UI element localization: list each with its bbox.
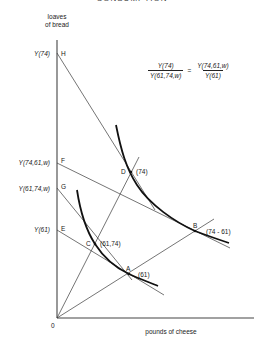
equation-lhs-numerator: Y(74) — [156, 62, 176, 70]
point-B-tag: (74 - 61) — [206, 228, 231, 235]
point-F-label: F — [61, 157, 65, 164]
y-label-Y74: Y(74) — [34, 50, 50, 57]
point-B-marker — [194, 230, 197, 233]
budget-line-G — [57, 188, 132, 280]
point-H-label: H — [61, 50, 66, 57]
budget-line-H — [57, 53, 155, 210]
point-A-label: A — [126, 265, 130, 272]
point-B-label: B — [193, 222, 197, 229]
point-D-label: D — [121, 168, 126, 175]
y-label-Y61: Y(61) — [34, 226, 50, 233]
point-E-label: E — [61, 225, 65, 232]
point-C-label: C — [86, 240, 91, 247]
y-axis-title: loaves of bread — [38, 13, 76, 28]
equation-lhs-denominator: Y(61,74,w) — [148, 70, 183, 79]
equation-rhs-fraction: Y(74,61,w) Y(61) — [195, 62, 230, 79]
y-axis-title-line1: loaves — [38, 13, 76, 21]
y-axis-title-line2: of bread — [38, 21, 76, 29]
equation-rhs-numerator: Y(74,61,w) — [195, 62, 230, 70]
point-G-label: G — [61, 183, 66, 190]
equation-rhs-denominator: Y(61) — [203, 70, 223, 79]
point-A-marker — [128, 273, 131, 276]
indifference-curve-upper — [116, 125, 229, 243]
equation-equals-sign: = — [187, 67, 191, 74]
y-label-Y74-text: Y(74) — [34, 50, 50, 57]
point-D-tag: (74) — [136, 168, 148, 175]
y-label-Y74-61-w-text: Y(74,61,w) — [19, 159, 50, 166]
y-label-Y74-61-w: Y(74,61,w) — [19, 159, 50, 166]
y-label-Y61-text: Y(61) — [34, 226, 50, 233]
x-axis-title: pounds of cheese — [126, 328, 216, 336]
ray-origin-B — [57, 219, 214, 318]
y-label-Y61-74-w-text: Y(61,74,w) — [19, 185, 50, 192]
origin-label: 0 — [51, 322, 55, 329]
y-label-Y61-74-w: Y(61,74,w) — [19, 185, 50, 192]
equation-lhs-fraction: Y(74) Y(61,74,w) — [148, 62, 183, 79]
point-D-marker — [130, 171, 133, 174]
point-A-tag: (61) — [138, 271, 150, 278]
point-C-tag: (61,74) — [100, 240, 121, 247]
ratio-equation: Y(74) Y(61,74,w) = Y(74,61,w) Y(61) — [148, 62, 231, 79]
point-C-marker — [94, 243, 97, 246]
